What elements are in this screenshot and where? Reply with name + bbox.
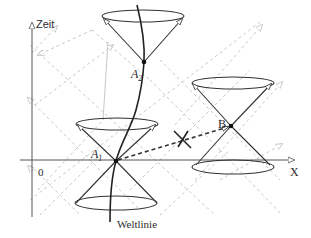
time-axis-label: Zeit [36, 18, 54, 30]
event-b-label: B [218, 117, 226, 131]
event-a2-point [142, 60, 147, 65]
light-cone-a1 [75, 118, 158, 210]
space-axis-label: X [290, 165, 299, 179]
spacetime-diagram: Zeit X 0 A1 A2 B Weltlinie [0, 0, 311, 238]
origin-label: 0 [38, 166, 44, 178]
event-a1-label: A1 [90, 147, 102, 163]
light-grid [28, 22, 282, 215]
event-b-point [229, 124, 234, 129]
worldline [110, 5, 144, 222]
axes [20, 23, 294, 217]
event-a1-point [114, 159, 119, 164]
event-a2-label: A2 [130, 67, 142, 83]
worldline-label: Weltlinie [117, 218, 157, 230]
